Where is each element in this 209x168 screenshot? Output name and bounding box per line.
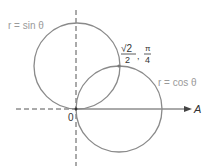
arrow-head-icon: [184, 106, 192, 112]
intersection-r-numerator: √2: [121, 43, 132, 54]
intersection-separator: ,: [137, 51, 140, 61]
curve-sin: [34, 23, 120, 109]
origin-label: 0: [68, 112, 74, 123]
intersection-theta-numerator: π: [145, 44, 151, 53]
origin-point: [75, 108, 78, 111]
intersection-theta-denominator: 4: [145, 55, 150, 65]
polar-diagram: r = sin θ r = cos θ √2 2 , π 4 0 A: [0, 0, 209, 168]
label-sin: r = sin θ: [8, 20, 44, 31]
polar-axis-label: A: [193, 103, 201, 115]
intersection-point: [117, 64, 120, 67]
intersection-r-denominator: 2: [125, 55, 130, 65]
label-cos: r = cos θ: [158, 77, 197, 88]
